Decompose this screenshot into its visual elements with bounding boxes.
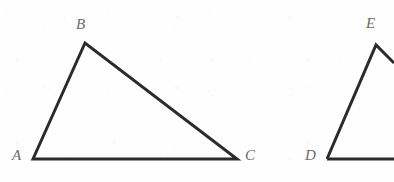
triangle-abc-shape xyxy=(33,43,237,159)
vertex-label-c: C xyxy=(245,148,255,163)
triangle-def-shape xyxy=(327,45,394,159)
vertex-label-d: D xyxy=(305,148,316,163)
vertex-label-e: E xyxy=(366,16,375,31)
diagram-canvas xyxy=(0,0,394,182)
triangle-def-outline xyxy=(327,45,394,159)
vertex-label-b: B xyxy=(76,17,85,32)
geometry-figure: A B C D E xyxy=(0,0,394,182)
triangle-abc-outline xyxy=(33,43,237,159)
vertex-label-a: A xyxy=(12,148,21,163)
